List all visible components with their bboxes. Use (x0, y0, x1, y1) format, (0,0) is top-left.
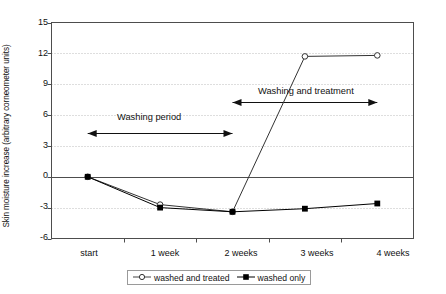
legend-item-washed-and-treated: washed and treated (133, 272, 230, 284)
legend-label-washed-and-treated: washed and treated (154, 273, 230, 283)
annotation-arrowhead (368, 99, 377, 106)
legend-label-washed-only: washed only (258, 273, 306, 283)
open-circle-marker-icon (133, 272, 151, 284)
data-point-filled-square (230, 209, 236, 215)
legend-item-washed-only: washed only (237, 272, 306, 284)
chart-legend: washed and treated washed only (127, 270, 311, 285)
series-line (88, 177, 378, 212)
data-point-filled-square (85, 174, 91, 180)
plot-area (0, 0, 446, 294)
filled-square-marker-icon (237, 272, 255, 284)
chart-container: Skin moisture increase (arbitrary corneo… (0, 0, 446, 294)
gridlines-group (52, 54, 414, 209)
data-point-open-circle (302, 54, 308, 60)
annotation-arrowhead (224, 130, 233, 137)
data-point-filled-square (302, 206, 308, 212)
plot-frame (52, 23, 414, 239)
annotation-washing-and-treatment-label: Washing and treatment (258, 86, 354, 97)
data-point-filled-square (157, 205, 163, 211)
annotation-arrowhead (88, 130, 97, 137)
annotation-washing-period-label: Washing period (117, 112, 181, 123)
data-point-filled-square (374, 201, 380, 207)
data-point-open-circle (375, 53, 381, 59)
annotation-arrowhead (233, 99, 242, 106)
